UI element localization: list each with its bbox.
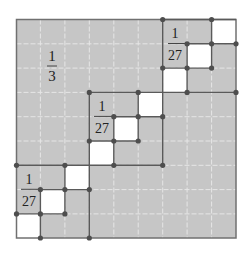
top-right-fraction-denominator: 27 xyxy=(168,48,182,63)
middle-fraction-denominator: 27 xyxy=(95,121,109,136)
big-fraction-numerator: 1 xyxy=(48,48,56,64)
middle-fraction-numerator: 1 xyxy=(99,99,106,114)
self-similar-square-diagram: 1 3 1 27 1 27 1 27 xyxy=(0,0,250,255)
bottom-left-fraction-numerator: 1 xyxy=(26,172,33,187)
top-right-fraction-numerator: 1 xyxy=(172,26,179,41)
bottom-left-fraction-denominator: 27 xyxy=(22,194,36,209)
big-fraction-denominator: 3 xyxy=(48,68,56,84)
